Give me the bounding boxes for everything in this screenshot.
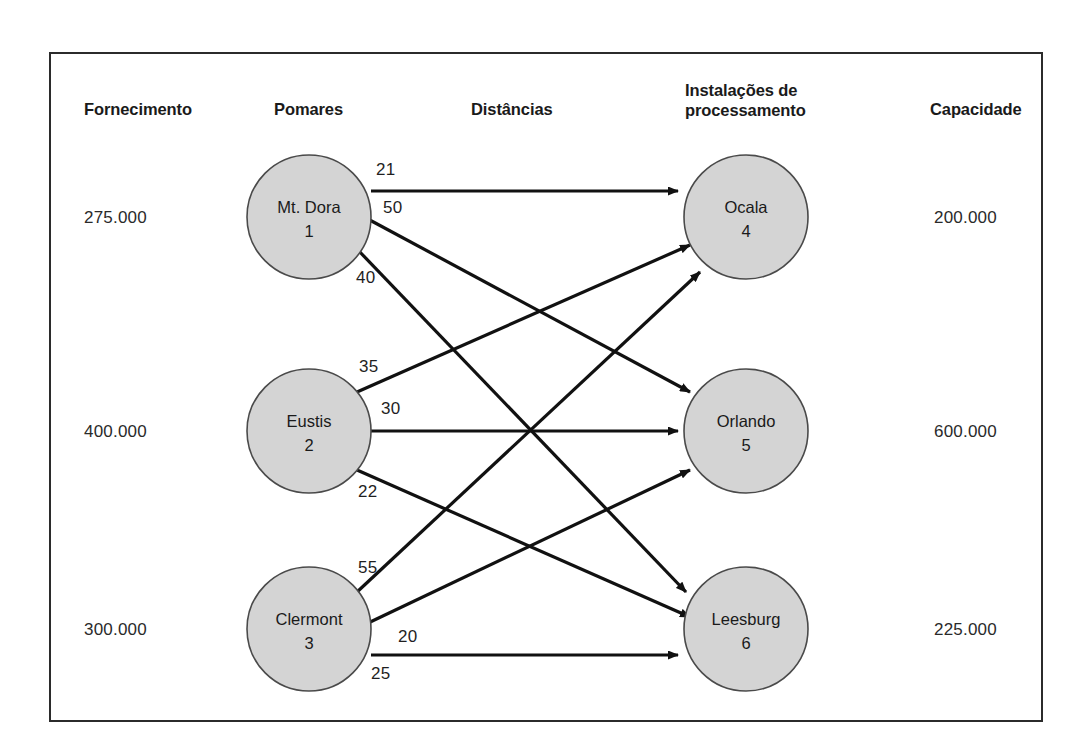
node-number-mt-dora: 1 [304, 222, 313, 240]
node-group: Mt. Dora 1 Eustis 2 Clermont 3 Ocala 4 [247, 155, 808, 691]
node-name-eustis: Eustis [287, 412, 332, 430]
edge-label-2-5: 30 [381, 399, 400, 419]
supply-value-3: 300.000 [84, 620, 147, 640]
header-instalacoes-processamento: Instalações de processamento [685, 80, 806, 120]
edge-label-3-6: 25 [371, 664, 390, 684]
node-circle-clermont [247, 567, 371, 691]
header-capacidade: Capacidade [930, 99, 1022, 119]
node-orlando[interactable]: Orlando 5 [684, 369, 808, 493]
capacity-value-4: 200.000 [934, 208, 997, 228]
node-number-clermont: 3 [304, 634, 313, 652]
node-number-orlando: 5 [741, 436, 750, 454]
supply-value-2: 400.000 [84, 422, 147, 442]
edge-label-1-5: 50 [383, 198, 402, 218]
node-ocala[interactable]: Ocala 4 [684, 155, 808, 279]
node-name-leesburg: Leesburg [712, 610, 781, 628]
node-circle-leesburg [684, 567, 808, 691]
header-fornecimento: Fornecimento [84, 99, 192, 119]
node-leesburg[interactable]: Leesburg 6 [684, 567, 808, 691]
node-name-ocala: Ocala [724, 198, 768, 216]
node-name-clermont: Clermont [276, 610, 343, 628]
node-clermont[interactable]: Clermont 3 [247, 567, 371, 691]
node-circle-mt-dora [247, 155, 371, 279]
node-name-mt-dora: Mt. Dora [277, 198, 341, 216]
node-number-leesburg: 6 [741, 634, 750, 652]
node-circle-ocala [684, 155, 808, 279]
capacity-value-5: 600.000 [934, 422, 997, 442]
edge-label-2-4: 35 [359, 357, 378, 377]
edge-label-1-4: 21 [376, 160, 395, 180]
node-number-ocala: 4 [741, 222, 750, 240]
node-number-eustis: 2 [304, 436, 313, 454]
edge-group [357, 191, 700, 655]
header-pomares: Pomares [274, 99, 343, 119]
edge-label-1-6: 40 [356, 268, 375, 288]
capacity-value-6: 225.000 [934, 620, 997, 640]
node-name-orlando: Orlando [717, 412, 776, 430]
edge-label-3-5: 20 [398, 627, 417, 647]
edge-2-4 [357, 245, 690, 392]
figure-root: Mt. Dora 1 Eustis 2 Clermont 3 Ocala 4 [0, 0, 1081, 751]
header-distancias: Distâncias [471, 99, 553, 119]
node-mt-dora[interactable]: Mt. Dora 1 [247, 155, 371, 279]
node-circle-orlando [684, 369, 808, 493]
supply-value-1: 275.000 [84, 208, 147, 228]
edge-label-2-6: 22 [358, 482, 377, 502]
node-circle-eustis [247, 369, 371, 493]
edge-label-3-4: 55 [358, 558, 377, 578]
node-eustis[interactable]: Eustis 2 [247, 369, 371, 493]
